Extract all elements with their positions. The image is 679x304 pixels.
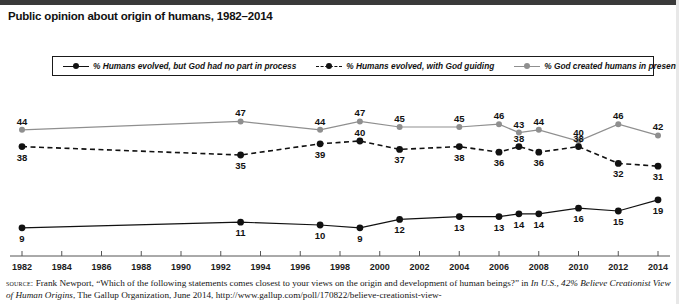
chart-data-point[interactable] xyxy=(237,152,244,159)
data-point-label: 44 xyxy=(17,116,28,127)
x-axis-tick-label: 1994 xyxy=(250,262,270,272)
chart-data-point[interactable] xyxy=(456,213,463,220)
data-point-label: 47 xyxy=(355,107,366,118)
chart-data-point[interactable] xyxy=(496,213,503,220)
chart-data-point[interactable] xyxy=(535,210,542,217)
data-point-label: 44 xyxy=(534,116,545,127)
data-point-label: 12 xyxy=(394,224,405,235)
chart-data-point[interactable] xyxy=(357,118,363,124)
data-point-label: 46 xyxy=(494,110,505,121)
x-axis-tick-label: 2010 xyxy=(568,262,588,272)
x-axis-tick-label: 1992 xyxy=(211,262,231,272)
chart-data-point[interactable] xyxy=(456,143,463,150)
legend-item-label: % God created humans in present form xyxy=(544,61,679,71)
chart-data-point[interactable] xyxy=(615,160,622,167)
chart-data-point[interactable] xyxy=(19,143,26,150)
data-point-label: 37 xyxy=(394,154,405,165)
chart-data-point[interactable] xyxy=(615,121,621,127)
chart-data-point[interactable] xyxy=(615,208,622,215)
chart-line-2 xyxy=(22,200,658,228)
data-point-label: 10 xyxy=(315,230,326,241)
chart-data-point[interactable] xyxy=(535,149,542,156)
data-point-label: 9 xyxy=(19,233,24,244)
chart-data-point[interactable] xyxy=(496,149,503,156)
data-point-label: 14 xyxy=(514,219,525,230)
page-title: Public opinion about origin of humans, 1… xyxy=(8,10,273,22)
data-point-label: 45 xyxy=(394,113,405,124)
data-point-label: 45 xyxy=(454,113,465,124)
x-axis-tick-label: 2000 xyxy=(370,262,390,272)
data-point-label: 16 xyxy=(573,213,584,224)
data-point-label: 38 xyxy=(454,152,465,163)
source-text-1: Frank Newport, “Which of the following s… xyxy=(33,278,530,288)
x-axis-tick-label: 2012 xyxy=(608,262,628,272)
x-axis-tick-label: 2002 xyxy=(409,262,429,272)
data-point-label: 42 xyxy=(653,121,664,132)
data-point-label: 38 xyxy=(573,133,584,144)
chart-data-point[interactable] xyxy=(238,118,244,124)
x-axis-tick-label: 1996 xyxy=(290,262,310,272)
data-point-label: 43 xyxy=(514,119,525,130)
chart-data-point[interactable] xyxy=(317,222,324,229)
x-axis-tick-label: 2008 xyxy=(529,262,549,272)
data-point-label: 19 xyxy=(653,205,664,216)
data-point-label: 13 xyxy=(494,222,505,233)
chart-data-point[interactable] xyxy=(237,219,244,226)
top-banner-bar xyxy=(0,0,679,5)
data-point-label: 36 xyxy=(494,157,505,168)
chart-data-point[interactable] xyxy=(19,224,26,231)
legend-line-marker-icon xyxy=(514,62,540,71)
x-axis-tick-label: 2014 xyxy=(648,262,668,272)
x-axis-tick-label: 1986 xyxy=(91,262,111,272)
chart-legend: % Humans evolved, but God had no part in… xyxy=(52,56,654,76)
chart-data-point[interactable] xyxy=(536,127,542,133)
legend-line-marker-icon xyxy=(316,62,342,71)
legend-item-humans-evolved-no-god[interactable]: % Humans evolved, but God had no part in… xyxy=(63,61,296,71)
legend-item-god-created-humans[interactable]: % God created humans in present form xyxy=(514,61,679,71)
data-point-label: 38 xyxy=(17,152,28,163)
chart-plot-area: 4447444745454643444046423835394037383638… xyxy=(0,88,679,263)
legend-item-label: % Humans evolved, with God guiding xyxy=(346,61,494,71)
data-point-label: 36 xyxy=(534,157,545,168)
data-point-label: 9 xyxy=(357,233,362,244)
source-text-2: , The Gallup Organization, June 2014, ht… xyxy=(73,290,442,300)
data-point-label: 44 xyxy=(315,116,326,127)
chart-data-point[interactable] xyxy=(19,127,25,133)
data-point-label: 46 xyxy=(613,110,624,121)
chart-line-1 xyxy=(22,141,658,166)
data-point-label: 39 xyxy=(315,149,326,160)
x-axis-tick-label: 1982 xyxy=(12,262,32,272)
chart-data-point[interactable] xyxy=(396,146,403,153)
data-point-label: 38 xyxy=(514,133,525,144)
chart-data-point[interactable] xyxy=(575,143,582,150)
chart-data-point[interactable] xyxy=(496,121,502,127)
data-point-label: 35 xyxy=(235,160,246,171)
x-axis-tick-label: 1984 xyxy=(52,262,72,272)
chart-data-point[interactable] xyxy=(357,224,364,231)
x-axis-tick-label: 1990 xyxy=(171,262,191,272)
data-point-label: 11 xyxy=(236,227,246,238)
chart-data-point[interactable] xyxy=(456,124,462,130)
chart-data-point[interactable] xyxy=(516,210,523,217)
data-point-label: 32 xyxy=(613,168,624,179)
chart-data-point[interactable] xyxy=(357,138,364,145)
chart-data-point[interactable] xyxy=(397,124,403,130)
chart-data-point[interactable] xyxy=(317,140,324,147)
chart-data-point[interactable] xyxy=(655,196,662,203)
chart-data-point[interactable] xyxy=(516,143,523,150)
chart-data-point[interactable] xyxy=(317,127,323,133)
data-point-label: 31 xyxy=(653,171,664,182)
source-kicker: source: xyxy=(6,279,33,288)
legend-item-humans-evolved-with-god[interactable]: % Humans evolved, with God guiding xyxy=(316,61,494,71)
chart-data-point[interactable] xyxy=(655,132,661,138)
x-axis-tick-label: 2004 xyxy=(449,262,469,272)
data-point-label: 47 xyxy=(235,107,246,118)
chart-svg xyxy=(0,88,679,263)
source-note: source: Frank Newport, “Which of the fol… xyxy=(6,278,674,301)
x-axis-tick-label: 2006 xyxy=(489,262,509,272)
legend-line-marker-icon xyxy=(63,62,89,71)
chart-data-point[interactable] xyxy=(655,163,662,170)
chart-data-point[interactable] xyxy=(396,216,403,223)
x-axis-tick-label: 1988 xyxy=(131,262,151,272)
chart-data-point[interactable] xyxy=(575,205,582,212)
